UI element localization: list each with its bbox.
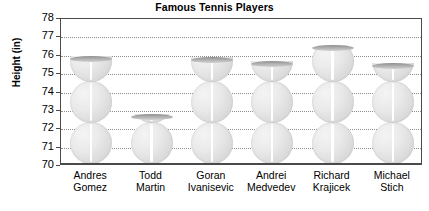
bar[interactable] — [70, 56, 112, 164]
x-axis-label-line: Andrei — [241, 170, 301, 182]
x-axis-label-line: Medvedev — [241, 182, 301, 194]
chart-container: Famous Tennis Players Height (in) 707172… — [0, 0, 429, 211]
x-axis-label-line: Richard — [301, 170, 361, 182]
x-axis-label-line: Ivanisevic — [181, 182, 241, 194]
bar[interactable] — [251, 61, 293, 164]
x-axis-category-label: RichardKrajicek — [301, 170, 361, 193]
x-axis-label-line: Andres — [60, 170, 120, 182]
y-axis-tick-label: 71 — [22, 141, 54, 152]
tennis-ball-seam — [211, 83, 214, 122]
y-axis-tick-label: 77 — [22, 30, 54, 41]
gridline — [61, 74, 421, 75]
x-axis-label-line: Martin — [120, 182, 180, 194]
y-axis-title: Height (in) — [11, 18, 22, 108]
gridline — [61, 129, 421, 130]
tennis-ball-icon — [372, 81, 414, 123]
tennis-ball-icon — [251, 81, 293, 123]
tennis-ball-seam — [392, 124, 395, 163]
x-axis-label-line: Gomez — [60, 182, 120, 194]
tennis-ball-icon — [372, 122, 414, 164]
y-axis-tick-label: 74 — [22, 86, 54, 97]
x-axis-category-label: AndresGomez — [60, 170, 120, 193]
chart-title: Famous Tennis Players — [0, 1, 429, 13]
tennis-ball-stack — [131, 114, 173, 164]
tennis-ball-stack — [372, 63, 414, 164]
x-axis-category-label: GoranIvanisevic — [181, 170, 241, 193]
bar-top-cap — [372, 63, 414, 69]
tennis-ball-stack — [70, 56, 112, 164]
y-axis-tick-label: 75 — [22, 67, 54, 78]
bar[interactable] — [131, 114, 173, 164]
y-axis-tick-label: 73 — [22, 104, 54, 115]
x-axis-label-line: Goran — [181, 170, 241, 182]
tennis-ball-seam — [90, 83, 93, 122]
gridline — [61, 56, 421, 57]
tennis-ball-seam — [331, 83, 334, 122]
x-axis-category-label: ToddMartin — [120, 170, 180, 193]
gridline — [61, 148, 421, 149]
tennis-ball-icon — [191, 81, 233, 123]
tennis-ball-stack — [251, 61, 293, 164]
gridline — [61, 93, 421, 94]
tennis-ball-seam — [271, 83, 274, 122]
tennis-ball-seam — [392, 83, 395, 122]
x-axis-label-line: Stich — [362, 182, 422, 194]
tennis-ball-seam — [150, 124, 153, 163]
tennis-ball-seam — [211, 124, 214, 163]
gridline — [61, 37, 421, 38]
x-axis-label-line: Krajicek — [301, 182, 361, 194]
y-axis-tick-label: 70 — [22, 159, 54, 170]
plot-area — [60, 18, 422, 165]
tennis-ball-icon — [251, 122, 293, 164]
y-axis-tick-mark — [56, 165, 60, 166]
y-axis-tick-label: 76 — [22, 49, 54, 60]
tennis-ball-icon — [312, 81, 354, 123]
tennis-ball-icon — [191, 122, 233, 164]
tennis-ball-seam — [271, 124, 274, 163]
x-axis-category-label: MichaelStich — [362, 170, 422, 193]
x-axis-category-label: AndreiMedvedev — [241, 170, 301, 193]
x-axis-label-line: Todd — [120, 170, 180, 182]
gridline — [61, 111, 421, 112]
tennis-ball-icon — [70, 122, 112, 164]
bar-top-cap — [70, 56, 112, 62]
bar[interactable] — [191, 57, 233, 164]
tennis-ball-seam — [90, 124, 93, 163]
tennis-ball-icon — [70, 81, 112, 123]
tennis-ball-icon — [312, 122, 354, 164]
tennis-ball-stack — [191, 57, 233, 164]
tennis-ball-stack — [312, 45, 354, 164]
bar[interactable] — [372, 63, 414, 164]
y-axis-tick-label: 78 — [22, 12, 54, 23]
tennis-ball-seam — [331, 124, 334, 163]
y-axis-tick-label: 72 — [22, 122, 54, 133]
x-axis-label-line: Michael — [362, 170, 422, 182]
bar-top-cap — [312, 45, 354, 51]
tennis-ball-icon — [131, 122, 173, 164]
bar[interactable] — [312, 45, 354, 164]
